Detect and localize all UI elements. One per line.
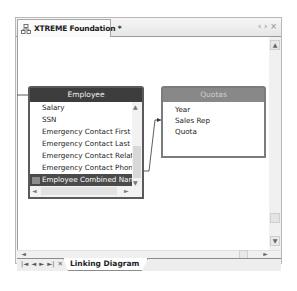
- link-line-employee-quotas[interactable]: [144, 120, 161, 171]
- link-lines: [0, 0, 297, 291]
- link-arrow-icon: [157, 118, 161, 122]
